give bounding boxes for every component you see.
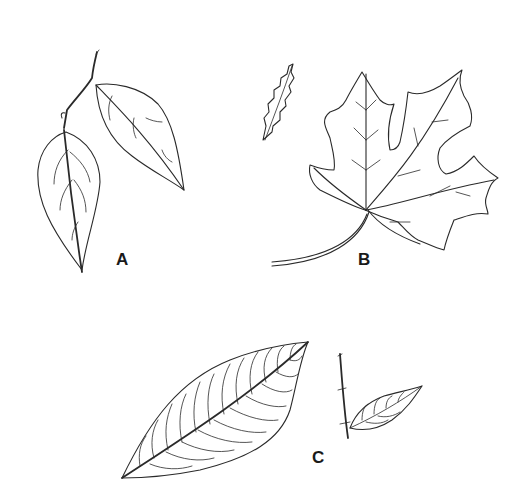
panel-a-drawing	[38, 50, 184, 272]
panel-label-b: B	[358, 250, 370, 270]
panel-c-drawing	[122, 342, 422, 478]
panel-b-drawing	[263, 64, 498, 266]
leaf-illustrations	[0, 0, 530, 504]
panel-label-a: A	[116, 250, 128, 270]
botanical-figure: A B C	[0, 0, 530, 504]
panel-label-c: C	[312, 448, 324, 468]
